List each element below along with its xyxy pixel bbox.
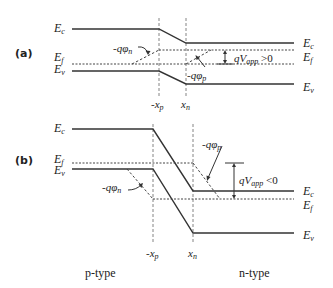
b-phi-n-arrow	[128, 185, 141, 190]
b-right-ec-label: Ec	[302, 184, 314, 199]
a-quasi-fermi-n-slope	[132, 50, 159, 64]
b-phi-p-label: -qφp	[202, 138, 221, 152]
panel-a-label: (a)	[15, 47, 32, 60]
panel-b-label: (b)	[15, 154, 33, 167]
b-xp-label: -xp	[146, 247, 159, 261]
a-conduction-band	[72, 29, 294, 43]
panel-b: (b) Ec Ef Ev -qφn -qφp qVapp <0	[15, 121, 314, 261]
a-right-ec-label: Ec	[302, 36, 314, 51]
a-valence-band	[72, 71, 294, 84]
a-left-ec-label: Ec	[53, 21, 65, 36]
b-vapp-arrowhead-bottom	[232, 195, 236, 199]
p-type-label: p-type	[85, 266, 116, 280]
b-quasi-fermi-p-slope	[193, 163, 220, 199]
a-vapp-arrowhead-bottom	[223, 60, 227, 64]
b-left-ec-label: Ec	[53, 121, 65, 136]
a-phi-n-label: -qφn	[113, 42, 132, 56]
b-phi-p-arrowhead	[207, 176, 211, 182]
b-vapp-arrowhead-top	[232, 163, 236, 167]
b-right-ev-label: Ev	[302, 228, 314, 243]
a-right-ef-label: Ef	[302, 50, 314, 65]
a-xp-label: -xp	[151, 98, 164, 112]
a-right-ev-label: Ev	[302, 80, 314, 95]
n-type-label: n-type	[239, 266, 270, 280]
b-right-ef-label: Ef	[302, 198, 314, 213]
b-xn-label: xn	[187, 247, 197, 261]
b-phi-n-label: -qφn	[102, 181, 121, 195]
b-phi-p-arrow	[208, 146, 222, 178]
b-vapp-label: qVapp <0	[239, 174, 278, 188]
a-phi-p-label: -qφp	[187, 69, 206, 83]
a-vapp-label: qVapp >0	[234, 52, 273, 66]
a-vapp-arrowhead-top	[223, 50, 227, 54]
pn-junction-band-diagram: (a) Ec Ef Ev -qφn -qφp qVapp >0	[0, 0, 333, 288]
a-xn-label: xn	[180, 98, 190, 112]
panel-a: (a) Ec Ef Ev -qφn -qφp qVapp >0	[15, 18, 314, 112]
